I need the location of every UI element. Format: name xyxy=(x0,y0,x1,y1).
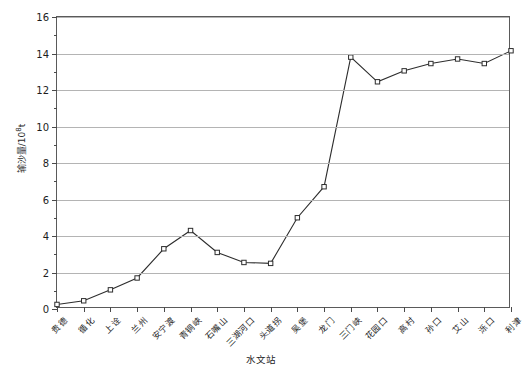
gridline xyxy=(57,163,509,164)
x-axis-tick-label: 吴堡 xyxy=(289,314,310,335)
x-axis-tick xyxy=(84,307,85,312)
x-axis-tick-label: 头道拐 xyxy=(256,314,284,342)
x-axis-tick xyxy=(351,307,352,312)
x-axis-tick xyxy=(164,307,165,312)
data-point-marker xyxy=(135,276,139,280)
data-point-marker xyxy=(349,55,353,59)
x-axis-tick xyxy=(297,307,298,312)
y-axis-minor-tick xyxy=(54,254,57,255)
y-axis-minor-tick xyxy=(54,145,57,146)
x-axis-tick-label: 泺口 xyxy=(476,314,497,335)
x-axis-tick xyxy=(377,307,378,312)
gridline xyxy=(57,17,509,18)
data-point-marker xyxy=(215,250,219,254)
gridline xyxy=(57,200,509,201)
x-axis-tick xyxy=(217,307,218,312)
x-axis-tick-label: 孙口 xyxy=(422,314,443,335)
x-axis-tick xyxy=(191,307,192,312)
x-axis-tick-label: 上诠 xyxy=(102,314,123,335)
x-axis-title: 水文站 xyxy=(0,352,521,366)
data-point-marker xyxy=(375,80,379,84)
y-axis-tick-label: 2 xyxy=(43,267,49,278)
x-axis-tick-label: 青铜峡 xyxy=(175,314,203,342)
y-axis-tick-label: 12 xyxy=(36,85,49,96)
x-axis-tick xyxy=(431,307,432,312)
y-axis-title: 输沙量/108t xyxy=(15,94,28,204)
y-axis-tick xyxy=(52,273,57,274)
y-axis-minor-tick xyxy=(54,291,57,292)
y-axis-tick xyxy=(52,54,57,55)
y-axis-tick-label: 8 xyxy=(43,158,49,169)
x-axis-tick xyxy=(244,307,245,312)
x-axis-tick xyxy=(324,307,325,312)
x-axis-tick xyxy=(57,307,58,312)
y-axis-tick-label: 14 xyxy=(36,48,49,59)
data-point-marker xyxy=(322,185,326,189)
x-axis-tick xyxy=(110,307,111,312)
y-axis-tick xyxy=(52,236,57,237)
data-point-marker xyxy=(188,228,192,232)
data-point-marker xyxy=(482,61,486,65)
gridline xyxy=(57,90,509,91)
gridline xyxy=(57,236,509,237)
y-axis-tick-label: 4 xyxy=(43,231,49,242)
y-axis-tick-label: 0 xyxy=(43,304,49,315)
y-axis-tick xyxy=(52,200,57,201)
plot-area: 0246810121416贵德循化上诠兰州安宁渡青铜峡石嘴山三湖河口头道拐吴堡龙… xyxy=(56,16,510,308)
y-axis-minor-tick xyxy=(54,108,57,109)
data-point-marker xyxy=(402,69,406,73)
y-axis-title-main: 输沙量/10 xyxy=(17,132,27,173)
data-point-marker xyxy=(82,299,86,303)
data-point-marker xyxy=(55,302,59,306)
x-axis-tick-label: 龙门 xyxy=(315,314,336,335)
data-point-marker xyxy=(242,260,246,264)
y-axis-tick-label: 6 xyxy=(43,194,49,205)
x-axis-tick-label: 三湖河口 xyxy=(222,314,256,348)
y-axis-tick xyxy=(52,127,57,128)
y-axis-minor-tick xyxy=(54,218,57,219)
data-point-marker xyxy=(295,216,299,220)
gridline xyxy=(57,273,509,274)
y-axis-title-exponent: 8 xyxy=(15,127,23,131)
data-point-marker xyxy=(509,49,513,53)
x-axis-tick-label: 兰州 xyxy=(128,314,149,335)
y-axis-tick xyxy=(52,90,57,91)
x-axis-tick xyxy=(271,307,272,312)
x-axis-tick-label: 高村 xyxy=(395,314,416,335)
y-axis-minor-tick xyxy=(54,35,57,36)
x-axis-tick-label: 艾山 xyxy=(449,314,470,335)
x-axis-tick xyxy=(137,307,138,312)
y-axis-tick-label: 16 xyxy=(36,12,49,23)
data-point-marker xyxy=(429,61,433,65)
x-axis-tick-label: 花园口 xyxy=(362,314,390,342)
y-axis-title-unit: t xyxy=(17,124,27,128)
y-axis-minor-tick xyxy=(54,181,57,182)
y-axis-tick-label: 10 xyxy=(36,121,49,132)
y-axis-tick xyxy=(52,163,57,164)
x-axis-tick-label: 贵德 xyxy=(48,314,69,335)
data-point-marker xyxy=(162,247,166,251)
x-axis-tick xyxy=(484,307,485,312)
data-point-marker xyxy=(268,261,272,265)
data-point-marker xyxy=(108,288,112,292)
gridline xyxy=(57,54,509,55)
data-point-marker xyxy=(455,57,459,61)
series-polyline xyxy=(57,51,511,305)
x-axis-tick-label: 三门峡 xyxy=(336,314,364,342)
x-axis-tick xyxy=(458,307,459,312)
x-axis-tick xyxy=(404,307,405,312)
y-axis-tick xyxy=(52,17,57,18)
x-axis-tick-label: 安宁渡 xyxy=(149,314,177,342)
y-axis-minor-tick xyxy=(54,72,57,73)
x-axis-tick-label: 循化 xyxy=(75,314,96,335)
x-axis-tick-label: 利津 xyxy=(502,314,523,335)
gridline xyxy=(57,127,509,128)
x-axis-tick xyxy=(511,307,512,312)
